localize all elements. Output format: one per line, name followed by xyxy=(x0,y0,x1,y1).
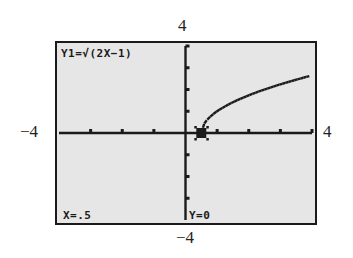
trace-y-value: Y=0 xyxy=(189,210,210,221)
xmax-label: 4 xyxy=(323,123,332,140)
trace-x-value: X=.5 xyxy=(63,210,92,221)
function-curve xyxy=(201,76,309,133)
graph-plot xyxy=(57,43,315,223)
axes xyxy=(59,46,312,220)
xmin-label: −4 xyxy=(20,123,38,140)
equation-label: Y1=√(2X−1) xyxy=(61,48,132,59)
axis-ticks xyxy=(89,45,313,200)
ymax-label: 4 xyxy=(178,17,187,34)
ymin-label: −4 xyxy=(176,229,194,246)
calculator-graph-screen: Y1=√(2X−1) X=.5 Y=0 xyxy=(55,41,317,225)
